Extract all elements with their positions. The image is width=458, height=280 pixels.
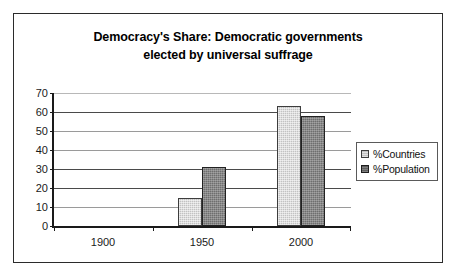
ytick-mark-20: [50, 188, 54, 189]
legend-item-countries: %Countries: [361, 148, 432, 160]
ytick-mark-30: [50, 169, 54, 170]
xtick-label-1900: 1900: [91, 236, 115, 248]
xtick-label-1950: 1950: [190, 236, 214, 248]
gridline-60: [54, 112, 351, 113]
chart-legend: %Countries %Population: [356, 142, 438, 181]
ytick-mark-50: [50, 131, 54, 132]
ytick-label-40: 40: [36, 144, 48, 156]
chart-title: Democracy's Share: Democratic government…: [14, 28, 442, 64]
ytick-label-50: 50: [36, 125, 48, 137]
bar-2000-countries: [277, 106, 301, 226]
ytick-label-30: 30: [36, 163, 48, 175]
legend-label-population: %Population: [373, 163, 430, 175]
bar-1950-population: [202, 167, 226, 226]
legend-item-population: %Population: [361, 163, 432, 175]
gridline-70: [54, 93, 351, 94]
ytick-label-60: 60: [36, 106, 48, 118]
chart-title-line-2: elected by universal suffrage: [14, 46, 442, 64]
chart-title-line-1: Democracy's Share: Democratic government…: [14, 28, 442, 46]
ytick-label-20: 20: [36, 182, 48, 194]
legend-swatch-population-icon: [361, 165, 369, 173]
xtick-label-2000: 2000: [289, 236, 313, 248]
xtick-mark-1: [153, 226, 154, 231]
plot-area: 70 60 50 40 30 20 10 0 1900 1950 2000: [52, 93, 351, 228]
bar-1950-countries: [178, 198, 202, 227]
bar-2000-population: [301, 116, 325, 226]
ytick-mark-70: [50, 93, 54, 94]
xtick-mark-end: [350, 226, 351, 231]
ytick-mark-10: [50, 207, 54, 208]
ytick-mark-40: [50, 150, 54, 151]
xtick-mark-start: [54, 226, 55, 231]
legend-swatch-countries-icon: [361, 150, 369, 158]
chart-frame: Democracy's Share: Democratic government…: [13, 13, 443, 263]
legend-label-countries: %Countries: [373, 148, 425, 160]
ytick-mark-60: [50, 112, 54, 113]
ytick-label-70: 70: [36, 87, 48, 99]
ytick-label-0: 0: [42, 220, 48, 232]
ytick-label-10: 10: [36, 201, 48, 213]
xtick-mark-2: [252, 226, 253, 231]
